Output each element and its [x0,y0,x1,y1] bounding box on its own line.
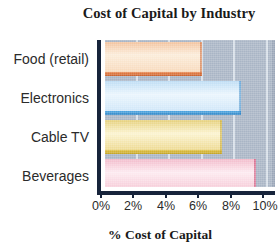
gridline-10pct [266,40,268,187]
tick-label-6pct: 6% [189,199,207,213]
bar-food-retail-edge [105,72,202,76]
bar-electronics-cap [239,81,241,115]
bar-beverages-cap [254,159,256,187]
bar-beverages [105,159,256,187]
bar-food-retail-body [105,42,202,72]
bar-food-retail-cap [200,42,202,76]
category-label-cable-tv: Cable TV [0,129,89,145]
bar-food-retail [105,42,202,76]
bar-cable-tv-edge [105,150,222,154]
tick-label-8pct: 8% [222,199,240,213]
category-label-electronics: Electronics [0,90,89,106]
value-axis-ticks [97,191,275,199]
chart-title: Cost of Capital by Industry [60,5,278,22]
tick-mark-6pct [197,191,199,198]
value-axis-labels: 0% 2% 4% 6% 8% 10% [97,199,275,217]
tick-mark-2pct [132,191,134,198]
value-axis-title: % Cost of Capital [60,227,260,243]
tick-mark-8pct [230,191,232,198]
tick-label-0pct: 0% [92,199,110,213]
bar-electronics [105,81,241,115]
bar-cable-tv-body [105,120,222,150]
tick-label-4pct: 4% [157,199,175,213]
tick-mark-4pct [165,191,167,198]
bar-cable-tv [105,120,222,154]
bar-electronics-body [105,81,241,111]
tick-mark-0pct [100,191,102,198]
plot-background [105,40,275,187]
category-axis-labels: Food (retail) Electronics Cable TV Bever… [0,40,94,196]
category-label-food-retail: Food (retail) [0,51,89,67]
bar-electronics-edge [105,111,241,115]
bar-beverages-body [105,159,256,187]
tick-mark-10pct [262,191,264,198]
category-label-beverages: Beverages [0,168,89,184]
tick-label-10pct: 10% [252,199,277,213]
bar-cable-tv-cap [220,120,222,154]
tick-label-2pct: 2% [124,199,142,213]
plot-right-edge [272,40,275,187]
plot-area [97,40,275,195]
